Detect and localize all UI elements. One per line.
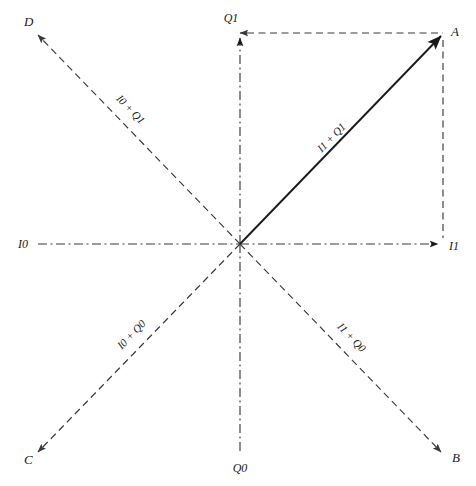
axis-label-q0: Q0 [233, 461, 248, 475]
axis-label-i0: I0 [17, 237, 28, 251]
point-label-d: D [23, 14, 34, 29]
point-label-c: C [24, 452, 33, 467]
vector-b-line [240, 244, 441, 452]
vector-d-length-label: I0 + Q1 [114, 92, 148, 127]
axis-label-i1: I1 [448, 239, 459, 253]
vector-a-line [240, 36, 441, 244]
vector-c-line [38, 244, 240, 452]
point-label-a: A [450, 24, 459, 39]
vector-b-length-label: I1 + Q0 [335, 320, 369, 355]
iq-constellation-diagram: I0 I1 Q1 Q0 A B C D I1 + Q1 I0 + Q1 I0 +… [0, 0, 476, 486]
point-label-b: B [452, 450, 460, 465]
diagram-canvas: I0 I1 Q1 Q0 A B C D I1 + Q1 I0 + Q1 I0 +… [0, 0, 476, 486]
vector-d-line [38, 35, 240, 244]
vector-c-length-label: I0 + Q0 [114, 317, 148, 352]
axis-label-q1: Q1 [224, 11, 239, 25]
